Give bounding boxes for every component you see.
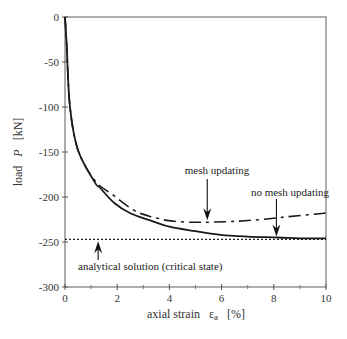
y-axis-label: load P [kN] xyxy=(11,118,25,187)
x-tick-label: 4 xyxy=(167,292,173,304)
annotations: mesh updatingno mesh updatinganalytical … xyxy=(78,164,330,273)
y-tick-label: 0 xyxy=(54,11,60,23)
load-strain-chart: 0-50-100-150-200-250-3000246810 mesh upd… xyxy=(0,0,347,339)
y-tick-label: -200 xyxy=(39,191,60,203)
y-tick-label: -250 xyxy=(39,236,60,248)
y-tick-label: -150 xyxy=(39,146,60,158)
plot-area-border xyxy=(65,17,326,287)
annotation-analytical-solution: analytical solution (critical state) xyxy=(78,260,223,273)
x-tick-label: 10 xyxy=(321,292,333,304)
y-tick-label: -50 xyxy=(44,56,59,68)
x-tick-label: 8 xyxy=(271,292,277,304)
plot-frame xyxy=(65,17,326,287)
annotation-mesh-updating: mesh updating xyxy=(185,164,250,176)
x-tick-label: 2 xyxy=(114,292,120,304)
x-axis-label: axial strain εa [%] xyxy=(147,307,245,323)
y-tick-label: -100 xyxy=(39,101,60,113)
x-tick-label: 6 xyxy=(219,292,225,304)
x-tick-label: 0 xyxy=(62,292,68,304)
series-no-mesh-updating xyxy=(65,17,326,238)
y-tick-label: -300 xyxy=(39,281,60,293)
annotation-no-mesh-updating: no mesh updating xyxy=(251,186,330,198)
axis-ticks xyxy=(62,17,326,290)
data-series xyxy=(65,17,327,239)
